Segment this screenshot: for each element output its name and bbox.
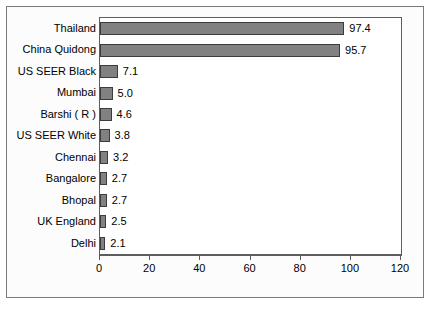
x-axis-tick [350,255,351,260]
bar[interactable] [100,65,118,78]
bar-row: 95.7 [100,39,401,60]
x-axis-tick [400,255,401,260]
category-label: Bhopal [4,190,96,211]
category-label: US SEER White [4,125,96,146]
x-axis-tick [300,255,301,260]
bar[interactable] [100,215,106,228]
x-axis-tick-label: 0 [79,261,119,275]
x-axis-tick-label: 40 [179,261,219,275]
x-axis-line [99,254,402,256]
bar-value-label: 2.7 [112,193,127,208]
category-label: Delhi [4,233,96,254]
bar-value-label: 97.4 [349,21,370,36]
bar[interactable] [100,108,112,121]
category-label: Mumbai [4,82,96,103]
x-axis-tick [250,255,251,260]
x-axis-tick-label: 120 [380,261,420,275]
bar-row: 97.4 [100,18,401,39]
bar-row: 2.1 [100,233,401,254]
bar-value-label: 7.1 [123,64,138,79]
chart-figure: ThailandChina QuidongUS SEER BlackMumbai… [0,0,432,310]
category-axis-labels: ThailandChina QuidongUS SEER BlackMumbai… [4,18,96,254]
x-axis-tick [199,255,200,260]
bar[interactable] [100,129,110,142]
bar[interactable] [100,22,344,35]
bar-row: 5.0 [100,82,401,103]
category-label: Chennai [4,147,96,168]
bar[interactable] [100,237,105,250]
bar[interactable] [100,151,108,164]
category-label: China Quidong [4,39,96,60]
bar-value-label: 2.1 [110,236,125,251]
bar-value-label: 2.7 [112,171,127,186]
x-axis-tick-label: 20 [129,261,169,275]
x-axis-tick [149,255,150,260]
bar-value-label: 3.2 [113,150,128,165]
x-axis-tick [99,255,100,260]
bar[interactable] [100,172,107,185]
bar-value-label: 4.6 [117,107,132,122]
category-label: UK England [4,211,96,232]
plot-area: 97.495.77.15.04.63.83.22.72.72.52.1 [100,18,401,254]
bar-value-label: 2.5 [111,214,126,229]
bar-row: 3.8 [100,125,401,146]
bar-row: 2.5 [100,211,401,232]
x-axis-tick-label: 80 [280,261,320,275]
x-axis-tick-label: 100 [330,261,370,275]
bar[interactable] [100,87,113,100]
bar[interactable] [100,44,340,57]
bar-row: 4.6 [100,104,401,125]
category-label: Thailand [4,18,96,39]
category-label: Barshi ( R ) [4,104,96,125]
bar-row: 7.1 [100,61,401,82]
bar-row: 3.2 [100,147,401,168]
bar-row: 2.7 [100,190,401,211]
category-label: US SEER Black [4,61,96,82]
bar-value-label: 5.0 [118,86,133,101]
bar-row: 2.7 [100,168,401,189]
bar[interactable] [100,194,107,207]
bar-value-label: 3.8 [115,128,130,143]
bar-value-label: 95.7 [345,43,366,58]
category-label: Bangalore [4,168,96,189]
x-axis-tick-label: 60 [230,261,270,275]
